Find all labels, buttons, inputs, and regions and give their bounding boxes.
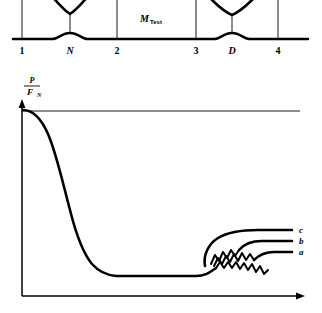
tick-label-4: 4 [276,45,281,56]
sawtooth-transition-region [211,250,268,274]
well-label-d: D [227,45,235,56]
tick-label-3: 3 [194,45,199,56]
bottom-panel: P F N [19,76,305,299]
mtest-label-base: M [139,13,150,24]
sawtooth-a [216,262,268,274]
branch-label-c: c [299,225,303,235]
well-label-n: N [65,45,74,56]
mtest-label-subscript: Test [150,19,162,25]
top-panel: M Test 1 2 3 4 N D [13,0,308,56]
y-axis-arrowhead [19,99,26,108]
x-axis [22,293,305,300]
branch-curve-a [254,252,292,260]
branch-label-a: a [299,247,304,257]
tick-label-1: 1 [20,45,25,56]
y-axis-label-denominator: F [26,87,33,97]
branch-label-b: b [299,236,304,246]
y-axis-label: P F N [24,76,42,98]
upper-curve-left [40,0,100,14]
mtest-label: M Test [139,13,162,25]
tick-label-2: 2 [115,45,120,56]
upper-branch-curves [40,0,266,15]
figure-root: M Test 1 2 3 4 N D P F N [0,0,322,313]
main-decay-curve [23,110,216,276]
y-axis-label-numerator: P [30,76,35,85]
x-axis-arrowhead [296,293,305,300]
upper-curve-right [198,0,266,15]
schematic-baseline [13,33,308,39]
y-axis-label-denominator-subscript: N [36,92,42,98]
branch-curve-b [239,241,292,250]
baseline-tick-labels: 1 2 3 4 [20,45,281,56]
well-labels: N D [65,45,235,56]
branch-labels: c b a [299,225,304,257]
y-axis [19,99,26,296]
figure-canvas: M Test 1 2 3 4 N D P F N [0,0,322,313]
